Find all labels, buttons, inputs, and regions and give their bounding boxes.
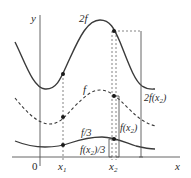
curve-2f [15,20,155,89]
curve-label-f3: f/3 [81,127,92,138]
origin-label: 0 [32,160,38,172]
bracket-label-2f-x2: 2f(x2) [144,92,167,105]
bracket-label-f-x2: f(x2) [120,122,138,135]
point-f-x2 [112,94,116,98]
point-f3-x1 [61,143,65,147]
y-axis-label: y [30,12,36,24]
bracket-f-x2 [116,96,119,157]
point-f-x1 [61,115,65,119]
function-scaling-diagram: y x 0 x1 x2 2f f f/3 2f(x2) f(x2) f(x2)/… [0,0,191,178]
x1-label: x1 [57,160,66,174]
bracket-2f-x2 [139,31,143,157]
x-axis-label: x [174,160,180,172]
point-f3-x2 [112,137,116,141]
point-2f-x2 [112,29,116,33]
point-2f-x1 [61,72,65,76]
curve-label-2f: 2f [79,12,90,24]
curve-label-f: f [83,83,88,95]
guides [63,31,141,160]
bracket-label-f-x2-third: f(x2)/3 [80,144,105,157]
x2-label: x2 [108,160,118,174]
bracket-f-x2-third [109,139,112,157]
curve-f [15,90,156,126]
